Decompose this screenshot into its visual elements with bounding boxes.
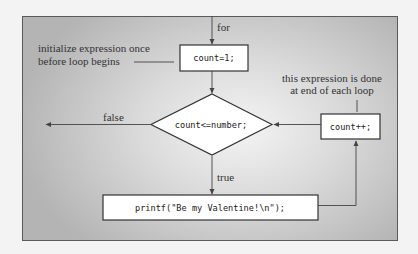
init-annotation-line2: before loop begins: [38, 55, 120, 67]
false-label: false: [103, 111, 124, 123]
update-label: count++;: [330, 122, 371, 132]
update-annotation-line2: at end of each loop: [290, 84, 374, 96]
body-label: printf("Be my Valentine!\n");: [135, 203, 285, 213]
true-label: true: [217, 171, 234, 183]
entry-label: for: [217, 21, 230, 33]
flowchart: for count=1; initialize expression once …: [0, 0, 418, 254]
init-annotation-line1: initialize expression once: [38, 42, 150, 54]
update-annotation-line1: this expression is done: [282, 72, 382, 84]
body-to-update-arrow: [318, 141, 356, 206]
init-label: count=1;: [193, 53, 234, 63]
condition-label: count<=number;: [175, 120, 247, 130]
